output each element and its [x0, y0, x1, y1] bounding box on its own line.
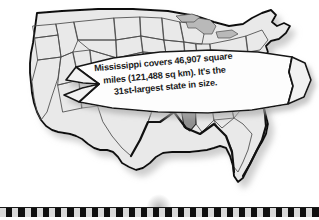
checkered-filmstrip — [0, 208, 319, 217]
page-root: Mississippi covers 46,907 square miles (… — [0, 0, 319, 220]
strip-cell — [312, 208, 318, 217]
map-figure: Mississippi covers 46,907 square miles (… — [0, 0, 319, 200]
